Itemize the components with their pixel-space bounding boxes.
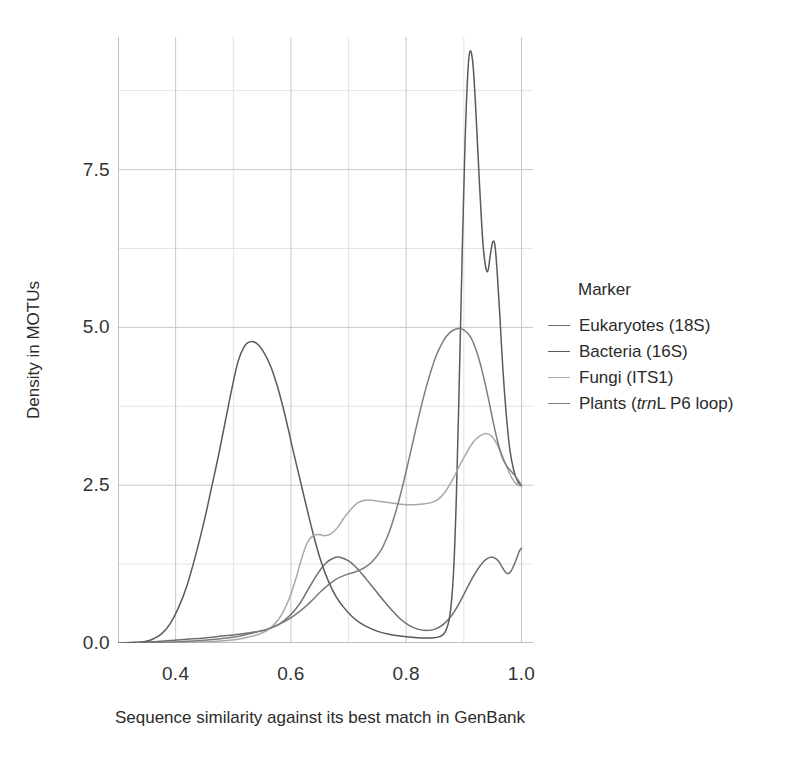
legend-entry-0[interactable]: Eukaryotes (18S) xyxy=(548,312,784,338)
axis-spines xyxy=(118,37,533,643)
legend-label: Eukaryotes (18S) xyxy=(579,317,710,334)
legend-swatch-icon xyxy=(548,351,570,352)
x-tick-label: 0.6 xyxy=(261,664,321,683)
series-line-0 xyxy=(118,548,521,643)
x-axis-title: Sequence similarity against its best mat… xyxy=(40,708,600,728)
legend: Marker Eukaryotes (18S)Bacteria (16S)Fun… xyxy=(548,281,784,416)
grid-major xyxy=(118,37,533,643)
series-lines xyxy=(118,51,521,643)
y-tick-label: 5.0 xyxy=(50,317,110,336)
x-tick-label: 1.0 xyxy=(491,664,551,683)
legend-entry-1[interactable]: Bacteria (16S) xyxy=(548,338,784,364)
series-line-1 xyxy=(130,51,522,643)
series-line-2 xyxy=(167,433,521,643)
legend-entries: Eukaryotes (18S)Bacteria (16S)Fungi (ITS… xyxy=(548,312,784,416)
y-axis-tick-labels: 0.02.55.07.5 xyxy=(40,0,110,761)
y-tick-label: 7.5 xyxy=(50,160,110,179)
legend-swatch-icon xyxy=(548,403,570,404)
x-axis-tick-labels: 0.40.60.81.0 xyxy=(0,664,790,694)
legend-label: Fungi (ITS1) xyxy=(579,369,673,386)
legend-label: Plants (trnL P6 loop) xyxy=(579,395,733,412)
y-tick-label: 2.5 xyxy=(50,475,110,494)
legend-swatch-icon xyxy=(548,325,570,326)
legend-entry-3[interactable]: Plants (trnL P6 loop) xyxy=(548,390,784,416)
y-axis-title: Density in MOTUs xyxy=(24,220,44,480)
legend-title: Marker xyxy=(578,281,784,298)
legend-label: Bacteria (16S) xyxy=(579,343,688,360)
x-tick-label: 0.8 xyxy=(376,664,436,683)
legend-entry-2[interactable]: Fungi (ITS1) xyxy=(548,364,784,390)
chart-canvas xyxy=(118,37,533,643)
density-chart-figure: 0.02.55.07.5 Density in MOTUs 0.40.60.81… xyxy=(0,0,790,761)
x-tick-label: 0.4 xyxy=(146,664,206,683)
grid-minor xyxy=(118,37,533,643)
y-tick-label: 0.0 xyxy=(50,633,110,652)
plot-area xyxy=(118,37,533,643)
legend-swatch-icon xyxy=(548,377,570,378)
